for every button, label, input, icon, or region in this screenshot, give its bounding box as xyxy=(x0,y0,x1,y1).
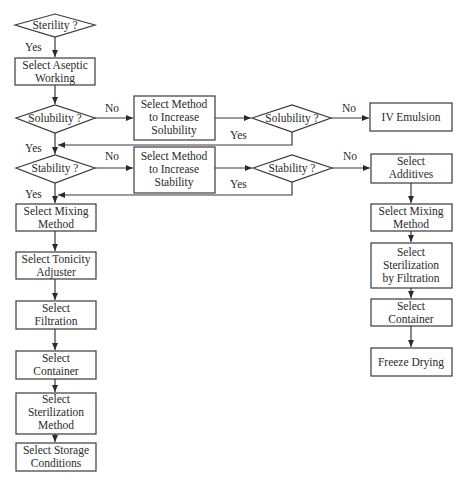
svg-text:to Increase: to Increase xyxy=(149,163,199,175)
edge-label-stability2-yes: Yes xyxy=(230,178,247,190)
svg-text:Select Mixing: Select Mixing xyxy=(379,205,444,218)
process-sterilization-method: Select Sterilization Method xyxy=(16,393,96,434)
svg-text:Select Storage: Select Storage xyxy=(23,444,89,457)
svg-text:Stability ?: Stability ? xyxy=(269,162,316,175)
svg-text:IV Emulsion: IV Emulsion xyxy=(382,111,441,123)
svg-text:by Filtration: by Filtration xyxy=(382,272,439,285)
process-tonicity-adjuster: Select Tonicity Adjuster xyxy=(16,252,96,279)
edge-label-solubility1-yes: Yes xyxy=(25,142,42,154)
svg-text:Select: Select xyxy=(42,302,71,314)
decision-stability-2: Stability ? xyxy=(253,155,332,182)
svg-text:Select Method: Select Method xyxy=(141,98,208,110)
svg-text:Stability: Stability xyxy=(155,176,194,189)
connectors xyxy=(55,37,411,442)
svg-text:Method: Method xyxy=(393,218,429,230)
svg-text:to Increase: to Increase xyxy=(149,111,199,123)
svg-text:Additives: Additives xyxy=(389,168,434,180)
process-storage-conditions: Select Storage Conditions xyxy=(16,443,96,471)
decision-solubility-1: Solubility ? xyxy=(16,105,95,133)
svg-text:Container: Container xyxy=(388,313,434,325)
edge-label-stability2-no: No xyxy=(343,150,357,162)
svg-text:Sterilization: Sterilization xyxy=(28,406,84,418)
svg-text:Method: Method xyxy=(38,218,74,230)
process-container-left: Select Container xyxy=(16,351,96,379)
svg-text:Select: Select xyxy=(397,155,426,167)
edge-label-stability1-yes: Yes xyxy=(25,188,42,200)
svg-text:Solubility: Solubility xyxy=(151,124,197,137)
decision-solubility-2: Solubility ? xyxy=(252,105,331,132)
process-mixing-method-left: Select Mixing Method xyxy=(16,204,96,231)
flowchart: Yes No Yes No Yes No Yes No Yes Sterilit… xyxy=(0,0,467,482)
decision-label: Sterility ? xyxy=(32,19,77,32)
process-filtration: Select Filtration xyxy=(16,301,96,329)
svg-text:Select Aseptic: Select Aseptic xyxy=(22,59,87,72)
process-increase-stability: Select Method to Increase Stability xyxy=(134,147,215,193)
decision-stability-1: Stability ? xyxy=(16,155,95,183)
edge-label-solubility2-no: No xyxy=(342,102,356,114)
svg-text:Select Tonicity: Select Tonicity xyxy=(22,253,91,266)
edge-label-sterility-yes: Yes xyxy=(25,41,42,53)
terminal-iv-emulsion: IV Emulsion xyxy=(370,103,452,131)
svg-text:Solubility ?: Solubility ? xyxy=(265,112,318,125)
process-sterilization-filtration: Select Sterilization by Filtration xyxy=(371,243,452,288)
svg-text:Adjuster: Adjuster xyxy=(36,266,76,279)
svg-text:Container: Container xyxy=(33,365,79,377)
edge-label-stability1-no: No xyxy=(105,150,119,162)
svg-text:Method: Method xyxy=(38,419,74,431)
svg-text:Sterilization: Sterilization xyxy=(383,259,439,271)
decision-sterility: Sterility ? xyxy=(15,14,95,37)
edge-label-solubility2-yes: Yes xyxy=(230,129,247,141)
svg-text:Select Mixing: Select Mixing xyxy=(24,205,89,218)
process-additives: Select Additives xyxy=(371,154,452,183)
process-mixing-method-right: Select Mixing Method xyxy=(371,204,452,231)
svg-text:Stability ?: Stability ? xyxy=(32,162,79,175)
svg-text:Freeze Drying: Freeze Drying xyxy=(378,356,444,369)
svg-text:Working: Working xyxy=(35,72,75,85)
svg-text:Select: Select xyxy=(42,352,71,364)
svg-text:Filtration: Filtration xyxy=(35,315,78,327)
process-increase-solubility: Select Method to Increase Solubility xyxy=(134,96,215,140)
svg-text:Select: Select xyxy=(397,246,426,258)
svg-text:Select Method: Select Method xyxy=(141,150,208,162)
svg-text:Conditions: Conditions xyxy=(31,457,82,469)
process-aseptic-working: Select Aseptic Working xyxy=(15,58,95,85)
svg-text:Select: Select xyxy=(42,393,71,405)
process-container-right: Select Container xyxy=(371,299,452,326)
svg-text:Solubility ?: Solubility ? xyxy=(28,112,81,125)
terminal-freeze-drying: Freeze Drying xyxy=(371,348,452,376)
edge-label-solubility1-no: No xyxy=(105,102,119,114)
svg-text:Select: Select xyxy=(397,300,426,312)
